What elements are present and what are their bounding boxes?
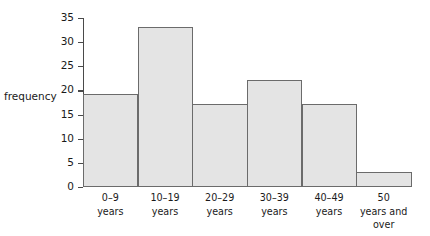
x-category-label-line: years (247, 205, 302, 219)
y-tick: 10 (78, 139, 83, 140)
x-category-label-line: over (356, 218, 411, 232)
x-category-label-line: years (83, 205, 138, 219)
x-category-label-line: 50 (356, 191, 411, 205)
bar (138, 27, 193, 187)
bar (302, 104, 357, 187)
y-tick-label: 15 (61, 108, 74, 121)
x-category-label-line: years (302, 205, 357, 219)
x-category-label: 30–39years (247, 191, 302, 218)
bar (192, 104, 247, 187)
x-category-label-line: 10–19 (138, 191, 193, 205)
bar (83, 94, 138, 187)
y-tick: 5 (78, 163, 83, 164)
x-axis-category-labels: 0–9years10–19years20–29years30–39years40… (83, 191, 411, 236)
x-category-label-line: 40–49 (302, 191, 357, 205)
bar (356, 172, 411, 187)
y-tick-label: 10 (61, 132, 74, 145)
x-category-label-line: 0–9 (83, 191, 138, 205)
y-tick: 25 (78, 66, 83, 67)
y-tick: 30 (78, 42, 83, 43)
bar-series (83, 18, 411, 187)
plot-area: 35302520151050 (83, 18, 411, 187)
x-category-label: 40–49years (302, 191, 357, 218)
y-tick-label: 30 (61, 35, 74, 48)
y-tick-label: 35 (61, 11, 74, 24)
y-tick: 35 (78, 18, 83, 19)
x-category-label: 10–19years (138, 191, 193, 218)
y-tick: 0 (78, 187, 83, 188)
x-category-label-line: 20–29 (192, 191, 247, 205)
x-category-label-line: years (138, 205, 193, 219)
x-category-label-line: 30–39 (247, 191, 302, 205)
bar (247, 80, 302, 187)
histogram-chart: frequency 35302520151050 0–9years10–19ye… (0, 0, 430, 236)
y-tick-label: 0 (67, 180, 74, 193)
x-category-label-line: years and (356, 205, 411, 219)
x-category-label: 20–29years (192, 191, 247, 218)
x-category-label: 50years andover (356, 191, 411, 232)
y-tick-label: 5 (67, 156, 74, 169)
x-category-label-line: years (192, 205, 247, 219)
y-tick: 15 (78, 115, 83, 116)
y-tick: 20 (78, 90, 83, 91)
y-tick-label: 20 (61, 83, 74, 96)
x-category-label: 0–9years (83, 191, 138, 218)
y-tick-label: 25 (61, 59, 74, 72)
